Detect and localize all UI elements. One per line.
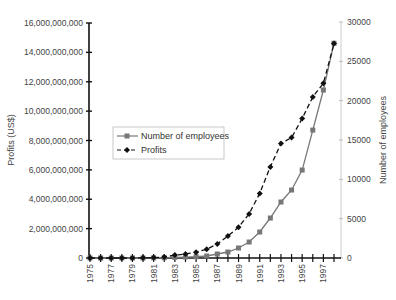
square-marker-icon bbox=[236, 246, 241, 251]
right-axis-title: Number of employees bbox=[378, 95, 388, 184]
x-tick-label: 1991 bbox=[255, 264, 265, 283]
legend: Number of employees Profits bbox=[113, 127, 230, 159]
legend-label-profits: Profits bbox=[141, 145, 167, 155]
square-marker-icon bbox=[125, 134, 130, 139]
square-marker-icon bbox=[289, 188, 294, 193]
left-tick-label: 2,000,000,000 bbox=[29, 224, 84, 234]
diamond-marker-icon bbox=[257, 190, 263, 196]
x-tick-label: 1981 bbox=[149, 264, 159, 283]
x-tick-label: 1979 bbox=[127, 264, 137, 283]
x-tick-label: 1995 bbox=[297, 264, 307, 283]
x-tick-label: 1993 bbox=[276, 264, 286, 283]
x-tick-label: 1985 bbox=[191, 264, 201, 283]
left-y-axis: 02,000,000,0004,000,000,0006,000,000,000… bbox=[24, 18, 92, 263]
right-tick-label: 15000 bbox=[347, 135, 371, 145]
square-marker-icon bbox=[225, 250, 230, 255]
x-tick-label: 1997 bbox=[318, 264, 328, 283]
x-tick-label: 1989 bbox=[234, 264, 244, 283]
x-tick-label: 1977 bbox=[106, 264, 116, 283]
square-marker-icon bbox=[300, 168, 305, 173]
left-tick-label: 10,000,000,000 bbox=[24, 106, 83, 116]
x-tick-label: 1975 bbox=[85, 264, 95, 283]
square-marker-icon bbox=[204, 254, 209, 259]
square-marker-icon bbox=[215, 251, 220, 256]
diamond-marker-icon bbox=[204, 246, 210, 252]
right-tick-label: 10000 bbox=[347, 174, 371, 184]
square-marker-icon bbox=[257, 230, 262, 235]
square-marker-icon bbox=[268, 216, 273, 221]
square-marker-icon bbox=[310, 128, 315, 133]
right-tick-label: 25000 bbox=[347, 56, 371, 66]
left-tick-label: 16,000,000,000 bbox=[24, 18, 83, 28]
diamond-marker-icon bbox=[267, 164, 273, 170]
diamond-marker-icon bbox=[278, 140, 284, 146]
left-tick-label: 0 bbox=[78, 253, 83, 263]
dual-axis-line-chart: 02,000,000,0004,000,000,0006,000,000,000… bbox=[0, 0, 396, 300]
diamond-marker-icon bbox=[310, 94, 316, 100]
right-tick-label: 20000 bbox=[347, 96, 371, 106]
left-tick-label: 4,000,000,000 bbox=[29, 194, 84, 204]
square-marker-icon bbox=[278, 200, 283, 205]
square-marker-icon bbox=[321, 88, 326, 93]
x-tick-label: 1987 bbox=[212, 264, 222, 283]
square-marker-icon bbox=[247, 240, 252, 245]
left-tick-label: 8,000,000,000 bbox=[29, 136, 84, 146]
left-tick-label: 6,000,000,000 bbox=[29, 165, 84, 175]
right-tick-label: 0 bbox=[347, 253, 352, 263]
left-axis-title: Profits (US$) bbox=[6, 114, 16, 166]
diamond-marker-icon bbox=[299, 115, 305, 121]
right-y-axis: 050001000015000200002500030000 bbox=[339, 17, 371, 263]
diamond-marker-icon bbox=[289, 135, 295, 141]
right-tick-label: 5000 bbox=[347, 214, 366, 224]
right-tick-label: 30000 bbox=[347, 17, 371, 27]
left-tick-label: 14,000,000,000 bbox=[24, 47, 83, 57]
x-tick-label: 1983 bbox=[170, 264, 180, 283]
left-tick-label: 12,000,000,000 bbox=[24, 77, 83, 87]
legend-label-employees: Number of employees bbox=[141, 131, 230, 141]
